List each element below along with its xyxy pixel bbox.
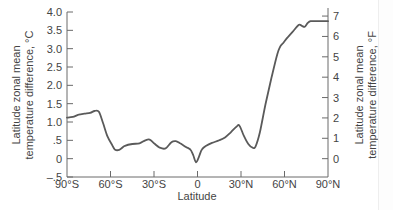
y-tick-label: 3.0 xyxy=(47,43,62,55)
right-y-tick-label: 3 xyxy=(333,92,339,104)
plot-frame xyxy=(67,8,328,177)
right-y-axis: 76543210 xyxy=(322,10,339,165)
temperature-curve xyxy=(67,21,328,162)
y-tick-label: 0 xyxy=(56,153,62,165)
x-tick-label: 60°S xyxy=(99,178,123,190)
left-y-axis: 4.03.53.02.52.01.51.0.50–.5 xyxy=(47,6,73,183)
y-tick-label: 1.5 xyxy=(47,98,62,110)
y-tick-label: 2.0 xyxy=(47,79,62,91)
right-y-tick-label: 0 xyxy=(333,153,339,165)
right-y-tick-label: 2 xyxy=(333,112,339,124)
y-tick-label: 2.5 xyxy=(47,61,62,73)
x-tick-label: 0 xyxy=(194,178,200,190)
page-edge xyxy=(378,0,393,210)
right-y-tick-label: 7 xyxy=(333,10,339,22)
x-tick-label: 90°N xyxy=(316,178,341,190)
y-tick-label: 4.0 xyxy=(47,6,62,18)
temperature-difference-chart: 4.03.53.02.52.01.51.0.50–.5 76543210 90°… xyxy=(0,0,393,210)
y-tick-label: 3.5 xyxy=(47,24,62,36)
x-tick-label: 60°N xyxy=(272,178,297,190)
right-axis-title-line1: Latitude zonal mean xyxy=(353,45,365,144)
left-axis-title-line1: Latitude zonal mean xyxy=(10,45,22,144)
left-axis-title-line2: temperature difference, °C xyxy=(23,30,35,159)
right-y-tick-label: 6 xyxy=(333,30,339,42)
right-y-tick-label: 1 xyxy=(333,132,339,144)
x-tick-label: 30°N xyxy=(229,178,254,190)
x-axis: 90°S60°S30°S030°N60°N90°N xyxy=(55,171,340,190)
right-axis-title-line2: temperature difference, °F xyxy=(366,31,378,159)
y-tick-label: .5 xyxy=(53,134,62,146)
x-axis-title: Latitude xyxy=(177,190,216,202)
right-y-tick-label: 5 xyxy=(333,51,339,63)
x-tick-label: 90°S xyxy=(55,178,79,190)
right-y-tick-label: 4 xyxy=(333,71,339,83)
y-tick-label: 1.0 xyxy=(47,116,62,128)
x-tick-label: 30°S xyxy=(142,178,166,190)
